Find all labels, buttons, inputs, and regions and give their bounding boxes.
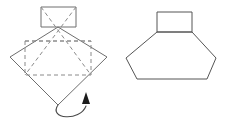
fold-direction-arrow-head-icon	[82, 92, 90, 104]
fold-direction-arrow-curve	[56, 105, 86, 117]
top-tab-rectangle	[41, 7, 76, 27]
folding-diagram-canvas	[0, 0, 234, 121]
figure-before-fold	[10, 7, 107, 117]
result-hexagon-body	[126, 32, 216, 79]
figure-after-fold	[126, 12, 216, 79]
inner-fold-square	[25, 41, 91, 75]
result-top-tab-rectangle	[157, 12, 192, 32]
